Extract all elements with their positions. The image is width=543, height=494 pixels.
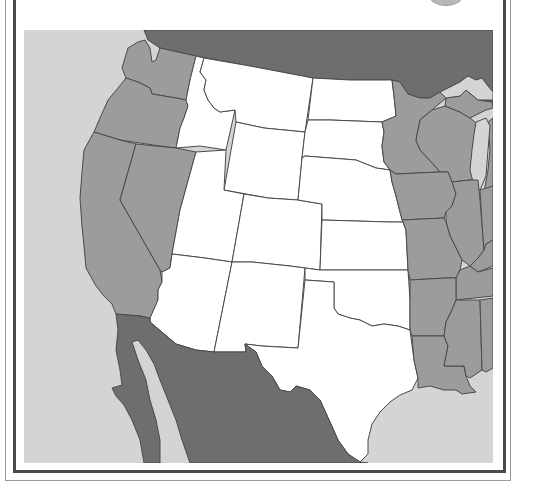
- state-wyoming[interactable]: [224, 122, 305, 200]
- state-north-dakota[interactable]: [308, 78, 396, 122]
- state-kansas[interactable]: [320, 220, 408, 270]
- state-alabama[interactable]: [480, 298, 493, 372]
- state-tennessee[interactable]: [456, 266, 493, 300]
- state-colorado[interactable]: [232, 194, 322, 270]
- western-us-map: [24, 30, 493, 463]
